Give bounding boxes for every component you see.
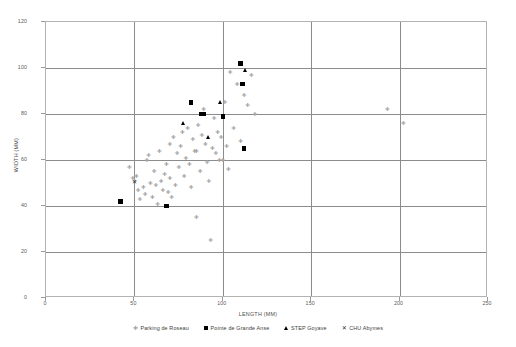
- data-point-cross: [206, 179, 210, 183]
- data-point-cross: [191, 137, 195, 141]
- data-point-cross: [168, 142, 172, 146]
- data-point-cross: [145, 158, 149, 162]
- data-point-cross: [176, 165, 180, 169]
- data-point-cross: [183, 156, 187, 160]
- x-tick-label: 150: [290, 300, 330, 306]
- y-tick-mark: [41, 67, 45, 68]
- data-point-cross: [150, 195, 154, 199]
- data-point-cross: [157, 149, 161, 153]
- data-point-cross: [208, 238, 212, 242]
- gridline-horizontal: [46, 160, 486, 161]
- y-tick-label: 0: [0, 294, 27, 300]
- data-point-cross: [235, 82, 239, 86]
- legend-item-step-goyave[interactable]: STEP Goyave: [284, 325, 326, 331]
- data-point-square: [201, 112, 206, 117]
- legend-label: STEP Goyave: [291, 325, 327, 331]
- data-point-triangle: [206, 135, 210, 139]
- data-point-cross: [134, 174, 138, 178]
- data-point-cross: [214, 151, 218, 155]
- data-point-triangle: [218, 100, 222, 104]
- data-point-cross: [212, 116, 216, 120]
- data-point-cross: [238, 139, 242, 143]
- y-tick-label: 80: [0, 110, 27, 116]
- data-point-cross: [180, 130, 184, 134]
- y-tick-label: 20: [0, 248, 27, 254]
- gridline-vertical: [134, 22, 135, 296]
- data-point-cross: [162, 172, 166, 176]
- legend-label: CHU Abymes: [349, 325, 383, 331]
- gridline-horizontal: [46, 114, 486, 115]
- data-point-cross: [178, 144, 182, 148]
- x-axis-title: LENGTH (MM): [0, 311, 516, 317]
- x-marker-icon: [342, 326, 347, 331]
- data-point-square: [221, 114, 226, 119]
- data-point-triangle: [243, 68, 247, 72]
- data-point-cross: [401, 121, 405, 125]
- data-point-cross: [226, 167, 230, 171]
- data-point-cross: [224, 144, 228, 148]
- data-point-cross: [141, 185, 145, 189]
- legend-item-pointe-de-grande-anse[interactable]: Pointe de Grande Anse: [204, 325, 270, 331]
- data-point-cross: [185, 126, 189, 130]
- y-tick-label: 120: [0, 18, 27, 24]
- legend-item-parking-de-roseau[interactable]: Parking de Roseau: [133, 325, 189, 331]
- data-point-cross: [159, 179, 163, 183]
- data-point-square: [240, 82, 245, 87]
- gridline-horizontal: [46, 206, 486, 207]
- data-point-cross: [164, 162, 168, 166]
- data-point-cross: [219, 135, 223, 139]
- data-point-cross: [252, 112, 256, 116]
- data-point-square: [238, 61, 243, 66]
- data-point-cross: [168, 176, 172, 180]
- x-tick-label: 100: [202, 300, 242, 306]
- y-tick-label: 100: [0, 64, 27, 70]
- data-point-square: [242, 146, 247, 151]
- data-point-cross: [173, 183, 177, 187]
- gridline-vertical: [311, 22, 312, 296]
- data-point-cross: [169, 195, 173, 199]
- data-point-cross: [175, 151, 179, 155]
- data-point-square: [189, 100, 194, 105]
- data-point-square: [118, 199, 123, 204]
- data-point-cross: [171, 135, 175, 139]
- data-point-x: [132, 180, 137, 185]
- data-point-square: [164, 204, 169, 209]
- legend-item-chu-abymes[interactable]: CHU Abymes: [342, 325, 383, 331]
- gridline-horizontal: [46, 68, 486, 69]
- y-tick-label: 40: [0, 202, 27, 208]
- y-axis-title: WIDTH (MM): [13, 125, 19, 185]
- data-point-cross: [245, 103, 249, 107]
- data-point-cross: [196, 123, 200, 127]
- y-tick-mark: [41, 113, 45, 114]
- triangle-marker-icon: [284, 326, 288, 330]
- y-tick-mark: [41, 205, 45, 206]
- data-point-cross: [146, 153, 150, 157]
- gridline-vertical: [400, 22, 401, 296]
- data-point-cross: [385, 107, 389, 111]
- chart-legend: Parking de Roseau Pointe de Grande Anse …: [0, 325, 516, 331]
- gridline-horizontal: [46, 252, 486, 253]
- data-point-cross: [228, 70, 232, 74]
- data-point-cross: [187, 162, 191, 166]
- data-point-cross: [205, 160, 209, 164]
- data-point-cross: [231, 126, 235, 130]
- plot-area: [45, 21, 487, 297]
- data-point-cross: [127, 165, 131, 169]
- data-point-cross: [194, 215, 198, 219]
- square-marker-icon: [204, 326, 208, 330]
- y-tick-mark: [41, 21, 45, 22]
- data-point-triangle: [181, 121, 185, 125]
- data-point-cross: [221, 158, 225, 162]
- scatter-chart: WIDTH (MM) LENGTH (MM) Parking de Roseau…: [0, 0, 516, 347]
- y-tick-label: 60: [0, 156, 27, 162]
- data-point-cross: [153, 183, 157, 187]
- data-point-cross: [155, 202, 159, 206]
- data-point-cross: [148, 181, 152, 185]
- legend-label: Pointe de Grande Anse: [211, 325, 270, 331]
- data-point-cross: [203, 142, 207, 146]
- data-point-cross: [249, 73, 253, 77]
- data-point-cross: [222, 100, 226, 104]
- x-tick-label: 50: [113, 300, 153, 306]
- x-tick-label: 0: [25, 300, 65, 306]
- y-tick-mark: [41, 251, 45, 252]
